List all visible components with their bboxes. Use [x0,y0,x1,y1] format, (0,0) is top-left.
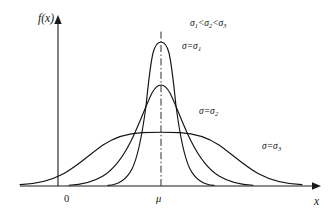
y-axis-label-text: f(x) [38,12,54,24]
mean-tick-label: μ [156,194,161,205]
x-axis-label-text: x [314,195,319,207]
curve-label-sigma-1: σ=σ1 [182,42,201,52]
mean-tick-label-text: μ [156,193,161,204]
chart-canvas [0,0,331,218]
x-axis-arrow-icon [312,182,321,189]
y-axis-arrow-icon [54,15,61,24]
origin-tick-label-text: 0 [64,193,69,204]
curve-label-sigma-1-prefix: σ=σ [182,41,198,51]
curve-label-sigma-2: σ=σ2 [199,107,218,117]
sigma-1-symbol: σ [190,18,195,28]
curve-label-sigma-3-prefix: σ=σ [262,141,278,151]
y-axis-label: f(x) [38,13,54,25]
normal-distribution-figure: f(x) x 0 μ σ1<σ2<σ3 σ=σ1 σ=σ2 σ=σ3 [0,0,331,218]
sigma-3-subscript: 3 [223,22,226,29]
curve-label-sigma-2-subscript: 2 [215,110,218,117]
curve-label-sigma-3: σ=σ3 [262,142,281,152]
sigma-ordering-annotation: σ1<σ2<σ3 [190,19,226,29]
curve-label-sigma-2-prefix: σ=σ [199,106,215,116]
curve-label-sigma-1-subscript: 1 [198,45,201,52]
curve-label-sigma-3-subscript: 3 [278,145,281,152]
origin-tick-label: 0 [64,194,69,205]
x-axis-label: x [314,196,319,208]
